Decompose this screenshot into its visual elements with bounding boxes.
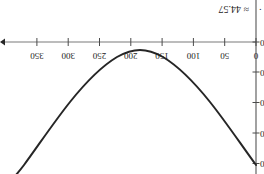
ytick-label-3: 0 bbox=[260, 129, 264, 138]
dot-marker: · bbox=[259, 4, 262, 14]
xtick-label-250: 250 bbox=[93, 51, 107, 60]
data-curve bbox=[11, 50, 256, 174]
rotated-figure-container: 0 50 100 150 200 250 300 350 0 0 0 0 0 ≈… bbox=[0, 0, 264, 174]
chart-screenshot: 0 50 100 150 200 250 300 350 0 0 0 0 0 ≈… bbox=[0, 0, 264, 174]
xtick-label-100: 100 bbox=[187, 51, 201, 60]
xtick-label-200: 200 bbox=[124, 51, 138, 60]
xtick-label-50: 50 bbox=[220, 51, 229, 60]
x-axis-arrowhead-icon bbox=[0, 38, 5, 45]
ytick-label-0: 0 bbox=[260, 38, 264, 47]
ytick-label-2: 0 bbox=[260, 98, 264, 107]
xtick-label-0: 0 bbox=[254, 51, 259, 60]
xtick-label-350: 350 bbox=[30, 51, 44, 60]
value-annotation: ≈ 44.57 bbox=[219, 4, 250, 14]
ytick-label-1: 0 bbox=[260, 68, 264, 77]
plot-canvas bbox=[0, 0, 264, 174]
ytick-label-4: 0 bbox=[260, 159, 264, 168]
plot-figure: 0 50 100 150 200 250 300 350 0 0 0 0 0 ≈… bbox=[0, 0, 264, 174]
xtick-label-300: 300 bbox=[61, 51, 75, 60]
xtick-label-150: 150 bbox=[155, 51, 169, 60]
